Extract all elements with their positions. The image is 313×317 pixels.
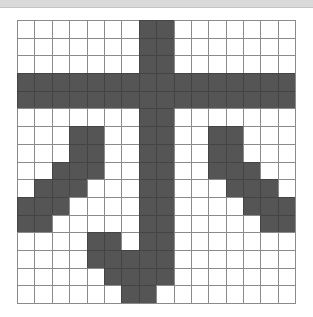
- grid-cell[interactable]: [52, 250, 69, 268]
- grid-cell[interactable]: [52, 20, 69, 38]
- grid-cell[interactable]: [278, 144, 295, 162]
- grid-cell[interactable]: [156, 215, 173, 233]
- grid-cell[interactable]: [104, 162, 121, 180]
- grid-cell[interactable]: [69, 232, 86, 250]
- grid-cell[interactable]: [104, 108, 121, 126]
- grid-cell[interactable]: [104, 179, 121, 197]
- grid-cell[interactable]: [191, 215, 208, 233]
- grid-cell[interactable]: [139, 232, 156, 250]
- grid-cell[interactable]: [191, 285, 208, 303]
- grid-cell[interactable]: [226, 108, 243, 126]
- grid-cell[interactable]: [87, 144, 104, 162]
- grid-cell[interactable]: [278, 162, 295, 180]
- grid-cell[interactable]: [17, 215, 34, 233]
- grid-cell[interactable]: [208, 179, 225, 197]
- grid-cell[interactable]: [208, 197, 225, 215]
- grid-cell[interactable]: [52, 55, 69, 73]
- grid-cell[interactable]: [87, 179, 104, 197]
- grid-cell[interactable]: [226, 162, 243, 180]
- grid-cell[interactable]: [278, 91, 295, 109]
- grid-cell[interactable]: [208, 38, 225, 56]
- grid-cell[interactable]: [17, 268, 34, 286]
- grid-cell[interactable]: [69, 285, 86, 303]
- grid-cell[interactable]: [69, 126, 86, 144]
- grid-cell[interactable]: [104, 197, 121, 215]
- grid-cell[interactable]: [87, 73, 104, 91]
- grid-cell[interactable]: [139, 162, 156, 180]
- grid-cell[interactable]: [243, 197, 260, 215]
- grid-cell[interactable]: [34, 268, 51, 286]
- grid-cell[interactable]: [34, 55, 51, 73]
- grid-cell[interactable]: [69, 55, 86, 73]
- grid-cell[interactable]: [174, 179, 191, 197]
- grid-cell[interactable]: [156, 91, 173, 109]
- grid-cell[interactable]: [104, 144, 121, 162]
- grid-cell[interactable]: [69, 38, 86, 56]
- grid-cell[interactable]: [17, 20, 34, 38]
- grid-cell[interactable]: [139, 38, 156, 56]
- grid-cell[interactable]: [52, 179, 69, 197]
- grid-cell[interactable]: [208, 162, 225, 180]
- grid-cell[interactable]: [121, 55, 138, 73]
- grid-cell[interactable]: [226, 285, 243, 303]
- grid-cell[interactable]: [104, 232, 121, 250]
- grid-cell[interactable]: [121, 179, 138, 197]
- grid-cell[interactable]: [208, 144, 225, 162]
- grid-cell[interactable]: [121, 20, 138, 38]
- grid-cell[interactable]: [208, 285, 225, 303]
- grid-cell[interactable]: [243, 108, 260, 126]
- grid-cell[interactable]: [34, 20, 51, 38]
- grid-cell[interactable]: [104, 91, 121, 109]
- grid-cell[interactable]: [156, 73, 173, 91]
- grid-cell[interactable]: [226, 268, 243, 286]
- grid-cell[interactable]: [139, 144, 156, 162]
- grid-cell[interactable]: [69, 20, 86, 38]
- grid-cell[interactable]: [278, 108, 295, 126]
- grid-cell[interactable]: [278, 55, 295, 73]
- grid-cell[interactable]: [87, 126, 104, 144]
- grid-cell[interactable]: [121, 162, 138, 180]
- grid-cell[interactable]: [174, 162, 191, 180]
- grid-cell[interactable]: [191, 126, 208, 144]
- grid-cell[interactable]: [52, 73, 69, 91]
- grid-cell[interactable]: [174, 250, 191, 268]
- grid-cell[interactable]: [69, 197, 86, 215]
- grid-cell[interactable]: [243, 91, 260, 109]
- grid-cell[interactable]: [226, 250, 243, 268]
- grid-cell[interactable]: [139, 91, 156, 109]
- grid-cell[interactable]: [121, 215, 138, 233]
- grid-cell[interactable]: [243, 268, 260, 286]
- grid-cell[interactable]: [226, 144, 243, 162]
- grid-cell[interactable]: [174, 144, 191, 162]
- grid-cell[interactable]: [34, 232, 51, 250]
- grid-cell[interactable]: [87, 20, 104, 38]
- grid-cell[interactable]: [260, 285, 277, 303]
- grid-cell[interactable]: [121, 126, 138, 144]
- grid-cell[interactable]: [174, 38, 191, 56]
- grid-cell[interactable]: [121, 38, 138, 56]
- grid-cell[interactable]: [208, 91, 225, 109]
- grid-cell[interactable]: [34, 197, 51, 215]
- grid-cell[interactable]: [191, 197, 208, 215]
- grid-cell[interactable]: [191, 162, 208, 180]
- grid-cell[interactable]: [243, 215, 260, 233]
- grid-cell[interactable]: [156, 197, 173, 215]
- grid-cell[interactable]: [260, 91, 277, 109]
- grid-cell[interactable]: [156, 162, 173, 180]
- grid-cell[interactable]: [156, 179, 173, 197]
- grid-cell[interactable]: [226, 91, 243, 109]
- grid-cell[interactable]: [87, 285, 104, 303]
- grid-cell[interactable]: [260, 20, 277, 38]
- grid-cell[interactable]: [87, 268, 104, 286]
- grid-cell[interactable]: [278, 179, 295, 197]
- grid-cell[interactable]: [260, 232, 277, 250]
- grid-cell[interactable]: [34, 179, 51, 197]
- grid-cell[interactable]: [243, 38, 260, 56]
- grid-cell[interactable]: [174, 126, 191, 144]
- grid-cell[interactable]: [52, 268, 69, 286]
- grid-cell[interactable]: [278, 250, 295, 268]
- grid-cell[interactable]: [121, 285, 138, 303]
- grid-cell[interactable]: [278, 73, 295, 91]
- grid-cell[interactable]: [52, 126, 69, 144]
- grid-cell[interactable]: [278, 215, 295, 233]
